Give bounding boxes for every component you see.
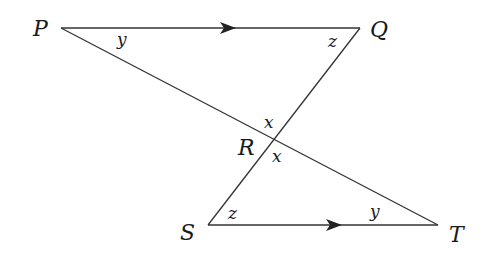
angle-label-s: z [227,203,238,223]
point-label-q: Q [370,17,388,42]
angle-label-q: z [327,31,338,51]
geometry-diagram: P Q R S T y z x x z y [0,0,493,271]
angle-label-t: y [369,201,380,221]
angle-label-r-bottom: x [272,146,282,166]
point-label-s: S [180,220,195,245]
segment-qs [208,28,360,225]
angle-label-p: y [116,29,127,49]
point-label-r: R [237,135,255,160]
point-label-t: T [449,222,466,247]
point-label-p: P [32,16,49,41]
segment-pt [61,28,438,225]
angle-label-r-top: x [264,112,274,132]
